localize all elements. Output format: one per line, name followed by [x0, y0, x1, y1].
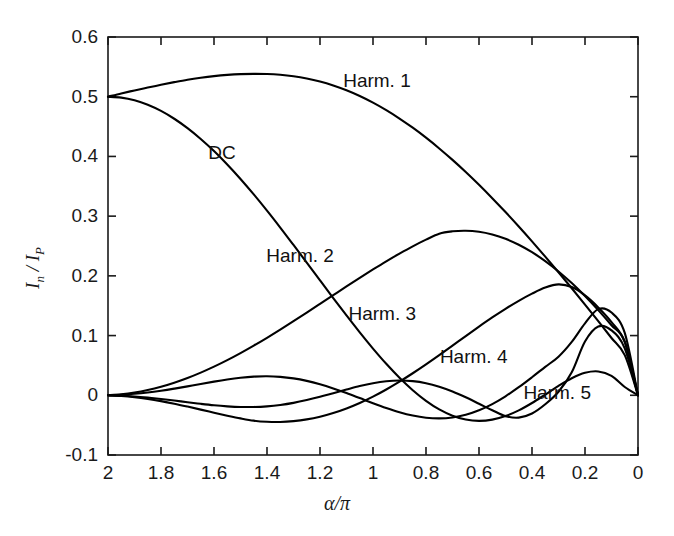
curve-dc [108, 97, 638, 421]
y-tick-label: 0.5 [30, 86, 98, 108]
curve-label-harm-2: Harm. 2 [266, 245, 334, 267]
y-axis-title-slash: / [22, 261, 43, 276]
data-curves [108, 74, 638, 422]
curve-label-harm-5: Harm. 5 [523, 382, 591, 404]
y-tick-label: 0 [30, 384, 98, 406]
curve-label-harm-3: Harm. 3 [348, 303, 416, 325]
curve-label-harm-1: Harm. 1 [343, 70, 411, 92]
x-tick-label: 1.2 [307, 462, 333, 484]
y-axis-title-sub1: n [32, 276, 47, 283]
x-axis-title: α/π [324, 492, 350, 515]
x-tick-label: 0.6 [466, 462, 492, 484]
plot-canvas [0, 0, 674, 536]
x-tick-label: 0.4 [519, 462, 545, 484]
y-axis-title: In / IP [22, 247, 48, 289]
x-tick-label: 1.4 [254, 462, 280, 484]
x-tick-label: 1.8 [148, 462, 174, 484]
curve-label-dc: DC [208, 142, 235, 164]
x-tick-label: 1.6 [201, 462, 227, 484]
x-tick-label: 1 [368, 462, 379, 484]
x-tick-label: 0 [633, 462, 644, 484]
x-tick-label: 0.2 [572, 462, 598, 484]
y-tick-label: 0.1 [30, 325, 98, 347]
y-tick-label: 0.3 [30, 205, 98, 227]
y-axis-title-base1: I [22, 283, 43, 289]
curve-label-harm-4: Harm. 4 [440, 346, 508, 368]
y-tick-label: -0.1 [30, 444, 98, 466]
chart-figure: -0.100.10.20.30.40.50.6 21.81.61.41.210.… [0, 0, 674, 536]
y-axis-title-base2: I [22, 255, 43, 261]
y-tick-label: 0.6 [30, 26, 98, 48]
y-tick-label: 0.4 [30, 145, 98, 167]
x-tick-label: 0.8 [413, 462, 439, 484]
y-axis-title-sub2: P [32, 247, 47, 255]
x-tick-label: 2 [103, 462, 114, 484]
